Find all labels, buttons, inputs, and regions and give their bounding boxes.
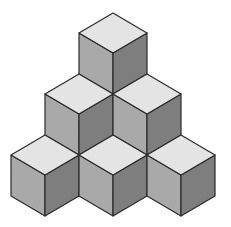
- cube-pyramid-figure: [0, 0, 231, 227]
